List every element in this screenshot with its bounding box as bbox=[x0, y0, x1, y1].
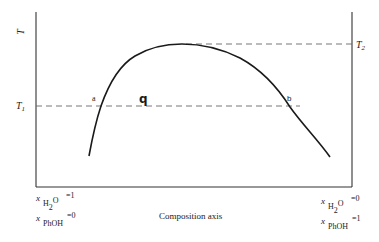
right-x-phoh-var: x bbox=[321, 217, 325, 226]
left-x-phoh-var: x bbox=[36, 214, 40, 223]
right-end-composition: x H2O =0 x PhOH =1 bbox=[321, 197, 379, 233]
point-q-label: q bbox=[139, 93, 148, 105]
right-x-phoh-sub: PhOH bbox=[328, 223, 348, 231]
point-a-label: a bbox=[92, 95, 96, 103]
t1-label-sub: 1 bbox=[22, 105, 26, 113]
left-x-phoh-row: x PhOH =0 bbox=[36, 214, 96, 230]
left-end-composition: x H2O =1 x PhOH =0 bbox=[36, 194, 96, 230]
left-x-phoh-value: =0 bbox=[67, 212, 76, 220]
y-axis-label: T bbox=[16, 29, 26, 35]
right-x-phoh-row: x PhOH =1 bbox=[321, 217, 379, 233]
left-x-phoh-sub: PhOH bbox=[43, 220, 63, 228]
x-axis-label: Composition axis bbox=[159, 212, 222, 221]
solubility-curve bbox=[89, 44, 330, 157]
t2-label: T2 bbox=[356, 40, 365, 52]
t1-label: T1 bbox=[16, 101, 25, 113]
right-x-phoh-value: =1 bbox=[352, 215, 361, 223]
point-b-label: b bbox=[287, 95, 291, 103]
left-x-h2o-row: x H2O =1 bbox=[36, 194, 96, 210]
right-x-h2o-value: =0 bbox=[351, 195, 360, 203]
right-x-h2o-row: x H2O =0 bbox=[321, 197, 379, 213]
left-x-h2o-value: =1 bbox=[66, 192, 75, 200]
right-x-h2o-sub: H2O bbox=[328, 203, 344, 211]
left-x-h2o-var: x bbox=[36, 194, 40, 203]
t2-label-sub: 2 bbox=[362, 44, 366, 52]
left-x-h2o-sub: H2O bbox=[43, 200, 59, 208]
right-x-h2o-var: x bbox=[321, 197, 325, 206]
